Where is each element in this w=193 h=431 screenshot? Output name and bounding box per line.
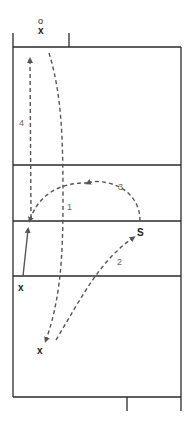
- top-player-x: x: [38, 26, 44, 36]
- path-3: [88, 182, 140, 221]
- solid-arrow: [23, 230, 28, 276]
- path-2: [56, 238, 133, 340]
- left-player-x: x: [18, 283, 24, 293]
- path-4-label: 4: [19, 119, 24, 128]
- path-1: [46, 53, 63, 340]
- court-diagram: [0, 0, 193, 431]
- path-1-label: 1: [67, 203, 72, 212]
- path-2-label: 2: [117, 258, 122, 267]
- server-label: S: [137, 228, 144, 238]
- path-3-cont: [30, 183, 88, 220]
- bottom-player-x: x: [37, 346, 43, 356]
- path-4: [30, 60, 31, 218]
- path-3-label: 3: [118, 183, 123, 192]
